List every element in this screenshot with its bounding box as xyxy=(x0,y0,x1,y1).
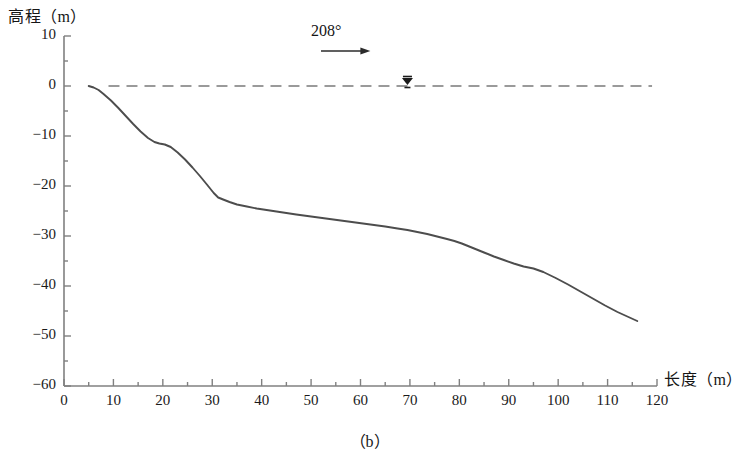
figure-container: 高程（m） 长度（m） 208° 100−10−20−30−40−50−60 0… xyxy=(0,0,739,457)
water-level-triangle-marker xyxy=(402,78,413,85)
plot-area xyxy=(0,0,739,457)
seabed-profile-path xyxy=(89,86,638,321)
figure-caption: （b） xyxy=(0,428,739,452)
seabed-profile-line xyxy=(89,86,638,321)
bearing-arrow-head xyxy=(360,48,370,55)
axes-group xyxy=(64,36,657,386)
annotation-marks xyxy=(321,48,413,88)
